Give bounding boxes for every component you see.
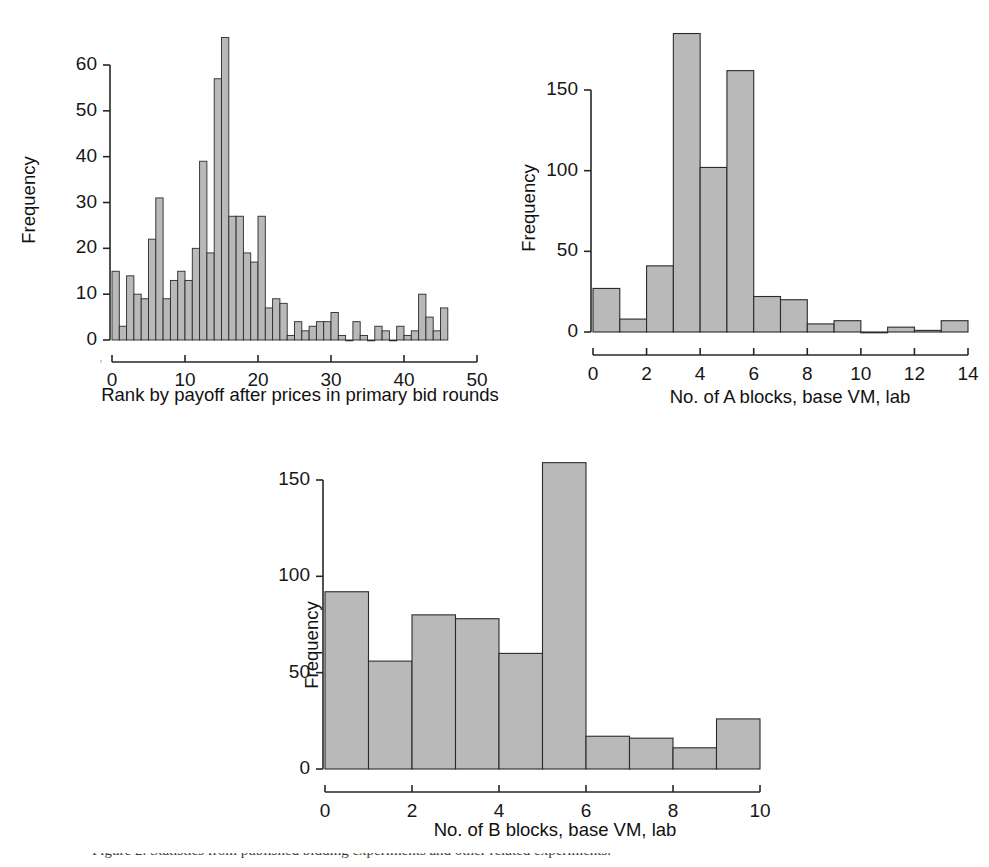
y-tick-label: 10 (76, 282, 97, 303)
a-blocks-x-axis: 02468101214 (588, 348, 979, 384)
rank-y-axis-title: Frequency (18, 156, 39, 244)
histogram-bar (178, 271, 185, 340)
histogram-bar (251, 262, 258, 340)
histogram-b-blocks: 0246810 050100150 No. of B blocks, base … (255, 430, 815, 867)
histogram-bar (229, 216, 236, 340)
histogram-bar (419, 294, 426, 340)
a-blocks-y-axis-title: Frequency (518, 164, 539, 252)
x-tick-label: 10 (749, 800, 770, 821)
histogram-bar (586, 736, 630, 769)
histogram-bar (200, 161, 207, 340)
y-tick-label: 100 (278, 564, 310, 585)
histogram-bar (331, 313, 338, 341)
histogram-bar (914, 330, 941, 332)
x-tick-label: 10 (850, 363, 871, 384)
x-tick-label: 2 (641, 363, 652, 384)
x-tick-label: 2 (407, 800, 418, 821)
y-tick-label: 0 (86, 328, 97, 349)
histogram-bar (325, 592, 369, 769)
histogram-bar (316, 322, 323, 340)
histogram-bar (324, 322, 331, 340)
histogram-bar (369, 661, 413, 769)
rank-x-axis-title: Rank by payoff after prices in primary b… (101, 384, 499, 405)
histogram-bar (673, 34, 700, 332)
y-tick-label: 0 (299, 757, 310, 778)
histogram-bar (141, 299, 148, 340)
a-blocks-x-axis-title: No. of A blocks, base VM, lab (670, 386, 911, 407)
rank-bars (112, 38, 448, 341)
y-tick-label: 100 (546, 159, 578, 180)
histogram-bar (647, 266, 674, 332)
stray-ink-mark: ' (100, 358, 102, 370)
histogram-bar (353, 322, 360, 340)
figure-caption-strip: Figure 2. Statistics from published bidd… (0, 853, 989, 867)
histogram-bar (170, 280, 177, 340)
b-blocks-bars (325, 463, 760, 769)
y-tick-label: 20 (76, 236, 97, 257)
histogram-bar (265, 308, 272, 340)
rank-y-axis: 0102030405060 (76, 53, 110, 349)
histogram-bar (941, 321, 968, 332)
histogram-bar (207, 253, 214, 340)
histogram-bar (127, 276, 134, 340)
histogram-bar (404, 335, 411, 340)
histogram-bar (112, 271, 119, 340)
histogram-bar (673, 748, 717, 769)
histogram-bar (781, 300, 808, 332)
histogram-bar (368, 340, 375, 341)
histogram-bar (426, 317, 433, 340)
histogram-bar (134, 294, 141, 340)
histogram-bar (717, 719, 761, 769)
histogram-bar (149, 239, 156, 340)
histogram-bar (499, 653, 543, 769)
b-blocks-x-axis: 0246810 (320, 785, 771, 821)
histogram-bar (412, 615, 456, 769)
histogram-bar (861, 332, 888, 333)
x-tick-label: 12 (904, 363, 925, 384)
y-tick-label: 50 (557, 239, 578, 260)
histogram-bar (620, 319, 647, 332)
histogram-bar (834, 321, 861, 332)
x-tick-label: 4 (695, 363, 706, 384)
b-blocks-y-axis-title: Frequency (301, 601, 322, 689)
histogram-bar (389, 340, 396, 341)
histogram-bar (185, 280, 192, 340)
histogram-rank-by-payoff: 01020304050 0102030405060 Rank by payoff… (0, 0, 500, 430)
histogram-bar (214, 79, 221, 340)
y-tick-label: 150 (546, 78, 578, 99)
figure-histograms: 01020304050 0102030405060 Rank by payoff… (0, 0, 989, 867)
x-tick-label: 6 (581, 800, 592, 821)
b-blocks-plot: 0246810 050100150 No. of B blocks, base … (255, 430, 815, 867)
y-tick-label: 150 (278, 468, 310, 489)
b-blocks-x-axis-title: No. of B blocks, base VM, lab (434, 819, 677, 840)
histogram-bar (222, 38, 229, 341)
figure-caption: Figure 2. Statistics from published bidd… (92, 853, 611, 859)
histogram-bar (630, 738, 674, 769)
histogram-bar (888, 327, 915, 332)
histogram-bar (280, 303, 287, 340)
a-blocks-y-axis: 050100150 (546, 78, 591, 341)
histogram-bar (411, 331, 418, 340)
histogram-bar (433, 331, 440, 340)
y-tick-label: 30 (76, 191, 97, 212)
histogram-bar (287, 335, 294, 340)
histogram-bar (338, 335, 345, 340)
histogram-bar (700, 167, 727, 332)
histogram-bar (807, 324, 834, 332)
x-tick-label: 14 (957, 363, 979, 384)
histogram-bar (346, 340, 353, 341)
histogram-bar (236, 216, 243, 340)
x-tick-label: 0 (588, 363, 599, 384)
histogram-bar (360, 335, 367, 340)
histogram-a-blocks: 02468101214 050100150 No. of A blocks, b… (490, 0, 989, 430)
y-tick-label: 0 (567, 320, 578, 341)
x-tick-label: 6 (748, 363, 759, 384)
histogram-bar (727, 71, 754, 332)
histogram-bar (309, 326, 316, 340)
x-tick-label: 8 (802, 363, 813, 384)
histogram-bar (382, 331, 389, 340)
histogram-bar (295, 322, 302, 340)
histogram-bar (163, 299, 170, 340)
histogram-bar (273, 299, 280, 340)
histogram-bar (543, 463, 587, 769)
